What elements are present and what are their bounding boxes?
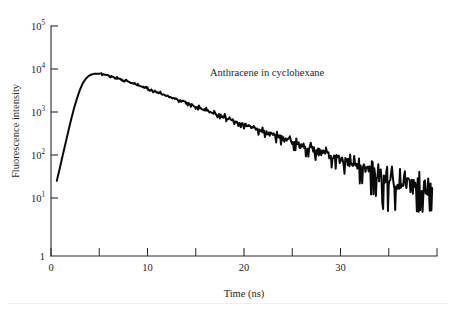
y-axis-tick-labels: 1101102103104105 [31,19,46,261]
plot-axes [51,26,437,256]
series-annotation: Anthracene in cyclohexane [210,67,325,78]
x-axis-ticks [51,248,437,256]
x-axis-tick-labels: 0102030 [48,262,345,273]
x-tick-label: 10 [142,262,153,273]
x-tick-label: 30 [335,262,346,273]
x-axis-title: Time (ns) [224,288,265,300]
x-tick-label: 0 [48,262,53,273]
x-tick-label: 20 [239,262,250,273]
decay-curve [57,73,432,212]
y-tick-label: 103 [31,105,46,117]
y-axis-ticks [51,26,58,198]
fluorescence-decay-figure: 1101102103104105 0102030 Anthracene in c… [0,0,456,314]
y-tick-label: 101 [31,191,46,203]
y-tick-label: 102 [31,148,46,160]
y-tick-label: 104 [31,62,46,74]
scan-artifact-line [8,303,448,304]
y-tick-label: 105 [31,19,46,31]
semilog-plot: 1101102103104105 0102030 Anthracene in c… [0,0,456,314]
y-axis-title: Fluorescence intensity [10,83,21,178]
y-tick-label: 1 [40,251,45,262]
